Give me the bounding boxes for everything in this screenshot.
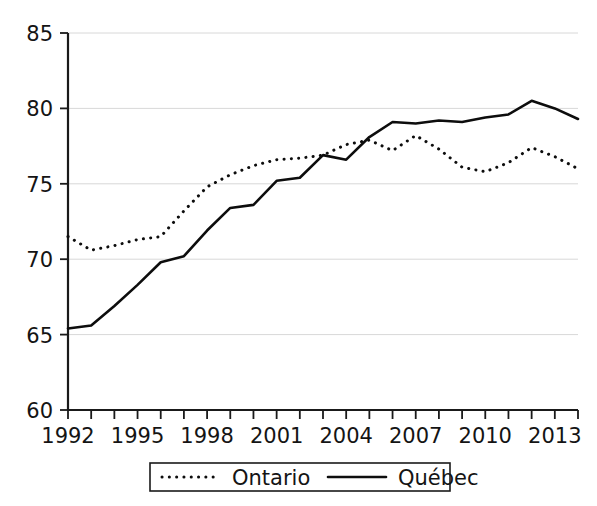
gridlines xyxy=(68,33,578,335)
y-tick-label-75: 75 xyxy=(26,173,53,197)
y-tick-label-80: 80 xyxy=(26,97,53,121)
y-tick-label-65: 65 xyxy=(26,324,53,348)
legend-label-qubec: Québec xyxy=(398,466,479,490)
y-axis: 606570758085 xyxy=(26,22,68,423)
legend-label-ontario: Ontario xyxy=(232,466,310,490)
series-line-ontario xyxy=(68,136,578,251)
x-tick-label-2004: 2004 xyxy=(319,424,372,448)
x-axis: 19921995199820012004200720102013 xyxy=(41,410,581,448)
chart-canvas: 606570758085 199219951998200120042007201… xyxy=(0,0,597,506)
line-chart: 606570758085 199219951998200120042007201… xyxy=(0,0,597,506)
data-series xyxy=(68,101,578,329)
y-tick-label-85: 85 xyxy=(26,22,53,46)
series-line-qubec xyxy=(68,101,578,329)
x-tick-label-2007: 2007 xyxy=(389,424,442,448)
x-tick-label-2013: 2013 xyxy=(528,424,581,448)
x-tick-label-1995: 1995 xyxy=(111,424,164,448)
x-tick-label-2010: 2010 xyxy=(459,424,512,448)
x-tick-label-2001: 2001 xyxy=(250,424,303,448)
y-tick-label-60: 60 xyxy=(26,399,53,423)
y-tick-label-70: 70 xyxy=(26,248,53,272)
x-tick-label-1992: 1992 xyxy=(41,424,94,448)
chart-legend: OntarioQuébec xyxy=(150,463,479,491)
x-tick-label-1998: 1998 xyxy=(180,424,233,448)
